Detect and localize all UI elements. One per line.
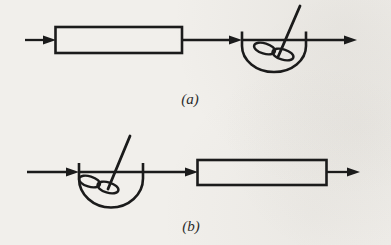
impeller-blade-icon (271, 46, 295, 62)
flow-out-arrow (327, 168, 361, 177)
panel-b: (b) (27, 136, 360, 235)
panel-a-label: (a) (181, 91, 199, 108)
connector-arrow (182, 36, 242, 45)
flow-in-arrow (27, 168, 79, 177)
flow-out-arrow (306, 36, 357, 45)
arrowhead-icon (66, 168, 79, 177)
arrowhead-icon (229, 36, 242, 45)
flow-in-arrow (25, 36, 56, 45)
arrowhead-icon (43, 36, 56, 45)
arrowhead-icon (344, 36, 357, 45)
stirred-tank-reactor-icon (78, 136, 143, 208)
stirrer-shaft-icon (108, 136, 130, 189)
connector-arrow (143, 168, 198, 177)
arrowhead-icon (185, 168, 198, 177)
panel-b-label: (b) (182, 218, 200, 235)
stirred-tank-reactor-icon (242, 6, 306, 72)
arrowhead-icon (347, 168, 360, 177)
plug-flow-reactor-icon (198, 160, 327, 185)
reactor-sequence-diagram: (a) (0, 0, 391, 245)
plug-flow-reactor-icon (56, 27, 183, 53)
scanned-book-page: (a) (0, 0, 391, 245)
panel-a: (a) (25, 6, 357, 108)
